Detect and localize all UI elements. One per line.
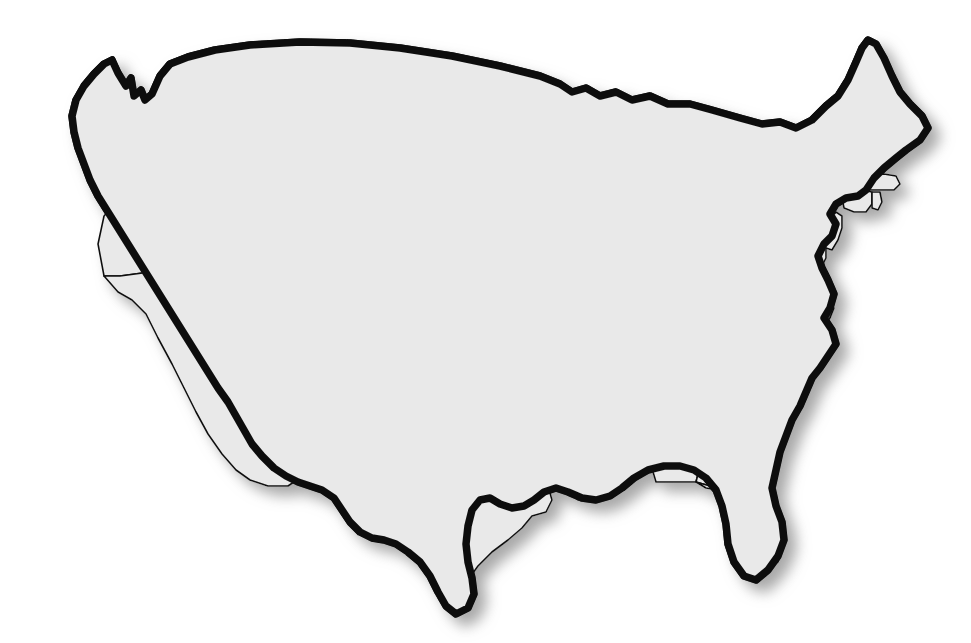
us-locator-map-figure: Washington Oregon California Nevada Idah… [0, 0, 971, 643]
us-map-svg: Washington Oregon California Nevada Idah… [0, 0, 971, 643]
